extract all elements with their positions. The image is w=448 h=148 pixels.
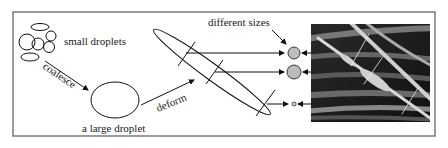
droplet-diagram: small droplets coalesce a large droplet …: [0, 0, 448, 148]
bead-large: [287, 65, 301, 79]
sem-photo: [300, 22, 440, 122]
small-droplets-label: small droplets: [64, 35, 126, 47]
large-droplet-label: a large droplet: [82, 122, 145, 134]
bead-small: [292, 102, 296, 106]
bead-medium: [288, 47, 300, 59]
different-sizes-label: different sizes: [208, 16, 270, 28]
